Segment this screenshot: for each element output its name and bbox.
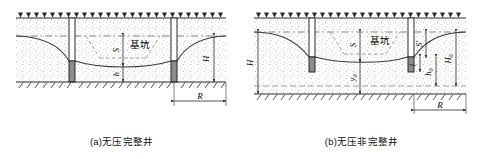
well-right-a <box>171 18 177 82</box>
label-H-b: H <box>245 59 255 67</box>
well-left-b <box>309 18 315 72</box>
caption-a: (a)无压完整井 <box>0 134 243 148</box>
ground-surface-a <box>16 13 226 19</box>
well-left-a <box>69 18 75 82</box>
ground-surface-b <box>254 13 466 19</box>
label-h-a: h <box>111 72 121 76</box>
diagram-b-canvas: H S y0 S' l h0 H0 <box>240 0 483 124</box>
diagram-unconfined-incomplete-well: H S y0 S' l h0 H0 <box>240 0 483 124</box>
caption-b: (b)无压非完整井 <box>240 134 483 148</box>
label-R-a: R <box>196 91 203 101</box>
dimension-R-b: R <box>414 94 466 114</box>
figure-container: S h H R 基坑 <box>0 0 483 159</box>
impermeable-base-b <box>254 94 466 100</box>
diagram-unconfined-complete-well: S h H R 基坑 <box>0 0 243 124</box>
label-H-a: H <box>201 55 211 63</box>
diagram-a-canvas: S h H R 基坑 <box>0 0 243 124</box>
soil-body <box>16 18 226 88</box>
label-S-prime-b: S' <box>414 41 424 47</box>
label-pit-b: 基坑 <box>370 35 390 46</box>
label-pit-a: 基坑 <box>130 39 150 50</box>
label-R-b: R <box>436 100 443 110</box>
